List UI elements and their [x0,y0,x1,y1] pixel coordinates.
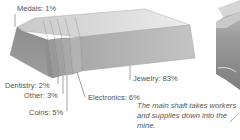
label-dentistry: Dentistry: 2% [5,81,50,90]
label-other: Other: 3% [24,91,58,100]
mine-shaft-caption: The main shaft takes workers and supplie… [137,101,237,131]
gold-uses-diagram: Medals: 1% Dentistry: 2% Other: 3% Coins… [0,0,240,140]
label-electronics: Electronics: 6% [88,93,140,102]
label-jewelry: Jewelry: 83% [133,74,178,83]
label-medals: Medals: 1% [17,4,56,13]
label-coins: Coins: 5% [29,108,63,117]
